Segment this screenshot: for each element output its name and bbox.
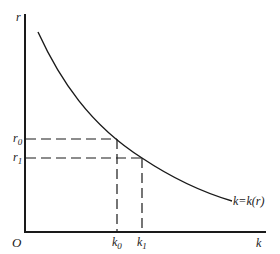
x-axis-label: k <box>256 236 262 250</box>
y-axis-label: r <box>16 10 21 24</box>
k0-label: k0 <box>112 235 122 251</box>
k1-label: k1 <box>137 235 147 251</box>
r1-label: r1 <box>13 150 22 166</box>
curve-label: k=k(r) <box>233 194 264 208</box>
r0-label: r0 <box>13 131 23 147</box>
origin-label: O <box>12 235 22 250</box>
demand-curve <box>38 32 232 201</box>
diagram-canvas: r k O r0 r1 k0 k1 k=k(r) <box>0 0 280 254</box>
